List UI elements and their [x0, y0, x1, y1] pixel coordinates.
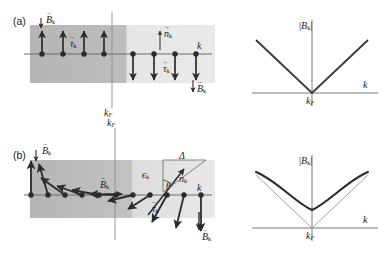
panel-a-chart-origin-label: kF [306, 96, 314, 107]
panel-b-chart-origin-label: kF [306, 231, 314, 242]
panel-b-tauk-label: τk [152, 204, 159, 215]
panel-a-tauk-label-left: τk [70, 39, 77, 50]
panel-b-kf-label: kF [107, 118, 115, 129]
panel-b-chart-xlabel: k [363, 215, 367, 225]
panel-b-theta-label: θ [166, 182, 171, 192]
panel-b-right-chart [252, 155, 378, 241]
panel-a-nk-label: nk [164, 29, 172, 40]
panel-a-tauk-label-right: τk [163, 64, 170, 75]
panel-a-Bk-label-left: Bk [46, 15, 55, 26]
panel-b-chart-ylabel: |Bk| [299, 156, 312, 167]
panel-b-Bk-label-right: Bk [202, 232, 211, 243]
panel-a-chart-ylabel: |Bk| [299, 21, 312, 32]
panel-b-id: (b) [13, 150, 26, 161]
panel-a-left-diagram [24, 12, 215, 108]
panel-b-epsilon-label: ϵk [142, 170, 149, 181]
panel-a-chart-xlabel: k [363, 80, 367, 90]
physics-figure [0, 0, 385, 260]
panel-a-Bk-label-right: Bk [197, 84, 206, 95]
panel-b-Bk-label-mid: Bk [100, 180, 109, 191]
panel-a-k-axis-label: k [197, 41, 201, 51]
panel-a-right-chart [252, 20, 378, 106]
panel-a-id: (a) [13, 16, 26, 27]
panel-b-nk-label: nk [179, 174, 187, 185]
panel-b-delta-label: Δ [179, 151, 185, 161]
panel-b-k-axis-label: k [197, 183, 201, 193]
panel-b-Bk-label-left: Bk [42, 146, 51, 157]
